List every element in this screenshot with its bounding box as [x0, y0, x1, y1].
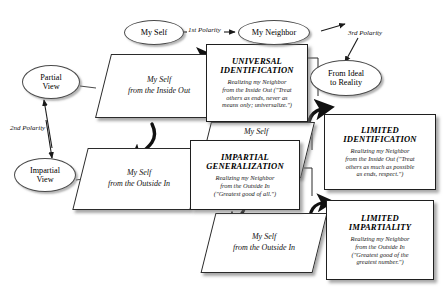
node-my-self[interactable]: My Self [124, 20, 184, 45]
box-limited-imp-body-3: greatest number.") [351, 258, 410, 266]
box-universal-body: Realizing my Neighbor from the Inside Ou… [222, 78, 292, 109]
box-universal-title: UNIVERSAL IDENTIFICATION [220, 57, 293, 76]
node-from-ideal-to-reality[interactable]: From Ideal to Reality [310, 60, 382, 96]
card-my-self-outside-in-bottom[interactable]: My Self from the Outside In [201, 213, 328, 273]
card-my-self-outside-in-left[interactable]: My Self from the Outside In [72, 148, 205, 210]
node-impartial-view-line-1: View [36, 175, 53, 184]
box-limited-identification[interactable]: LIMITED IDENTIFICATION Realizing my Neig… [324, 114, 436, 190]
card-bottom-line-0: My Self [209, 232, 319, 243]
card-top-line-0: My Self [104, 75, 214, 86]
node-from-ideal-line-1: to Reality [330, 78, 362, 87]
diagram-canvas: My Self My Neighbor Partial View Imparti… [0, 0, 446, 291]
box-limited-impartiality[interactable]: LIMITED IMPARTIALITY Realizing my Neighb… [326, 200, 434, 280]
card-top-line-1: from the Inside Out [104, 86, 214, 97]
card-my-self-inside-out-top[interactable]: My Self from the Inside Out [95, 54, 223, 118]
box-limited-id-title-1: IDENTIFICATION [343, 135, 416, 145]
node-my-neighbor[interactable]: My Neighbor [238, 20, 310, 45]
box-limited-imp-body-1: from the Outside In [351, 243, 410, 251]
box-universal-title-1: IDENTIFICATION [220, 66, 293, 76]
box-generalization-body-0: Realizing my Neighbor [214, 174, 276, 182]
box-limited-imp-body: Realizing my Neighbor from the Outside I… [351, 235, 410, 266]
box-generalization-title-1: GENERALIZATION [206, 162, 284, 172]
card-mid-line-0: My Self [205, 127, 307, 138]
node-partial-view[interactable]: Partial View [22, 65, 80, 99]
box-universal-body-2: others as ends, never as [222, 94, 292, 102]
box-universal-body-3: means only; universalize.") [222, 101, 292, 109]
node-impartial-view-line-0: Impartial [30, 166, 60, 175]
node-from-ideal-line-0: From Ideal [328, 69, 364, 78]
box-limited-imp-title-1: IMPARTIALITY [349, 223, 411, 233]
box-limited-id-body-2: others as much as possible [345, 163, 414, 171]
box-universal-identification[interactable]: UNIVERSAL IDENTIFICATION Realizing my Ne… [206, 44, 308, 122]
box-generalization-title: IMPARTIAL GENERALIZATION [206, 153, 284, 172]
box-limited-imp-body-0: Realizing my Neighbor [351, 235, 410, 243]
node-partial-view-line-0: Partial [40, 73, 61, 82]
label-third-polarity: 3rd Polarity [348, 29, 382, 37]
node-impartial-view[interactable]: Impartial View [14, 158, 76, 192]
card-left-line-0: My Self [81, 168, 197, 179]
box-limited-imp-body-2: ("Greatest good of the [351, 251, 410, 259]
box-generalization-body-2: ("Greatest good of all.") [214, 190, 276, 198]
box-limited-id-body-0: Realizing my Neighbor [345, 147, 414, 155]
label-second-polarity: 2nd Polarity [10, 124, 45, 132]
box-impartial-generalization[interactable]: IMPARTIAL GENERALIZATION Realizing my Ne… [190, 140, 300, 210]
box-universal-body-1: from the Inside Out ("Treat [222, 86, 292, 94]
box-universal-body-0: Realizing my Neighbor [222, 78, 292, 86]
box-limited-id-body: Realizing my Neighbor from the Inside Ou… [345, 147, 414, 178]
card-bottom-line-1: from the Outside In [209, 243, 319, 254]
box-limited-id-body-1: from the Inside Out ("Treat [345, 155, 414, 163]
card-left-line-1: from the Outside In [81, 179, 197, 190]
box-limited-id-title: LIMITED IDENTIFICATION [343, 126, 416, 145]
connector-partial-to-card [80, 86, 96, 88]
box-generalization-body: Realizing my Neighbor from the Outside I… [214, 174, 276, 197]
box-generalization-body-1: from the Outside In [214, 182, 276, 190]
node-my-neighbor-line-0: My Neighbor [252, 28, 296, 37]
box-limited-id-body-3: as ends, respect.") [345, 170, 414, 178]
node-my-self-line-0: My Self [141, 28, 168, 37]
box-limited-imp-title: LIMITED IMPARTIALITY [349, 214, 411, 233]
node-partial-view-line-1: View [42, 82, 59, 91]
label-first-polarity: 1st Polarity [188, 26, 221, 34]
